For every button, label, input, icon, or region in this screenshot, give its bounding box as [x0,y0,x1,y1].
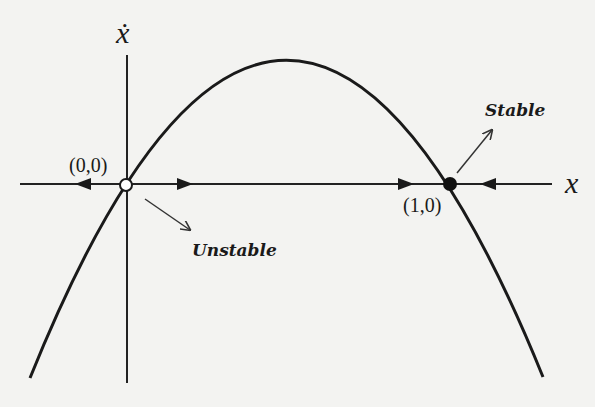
flow-arrow-left [75,178,91,190]
flow-arrow-right-1 [177,178,193,190]
origin-label: (0,0) [69,154,107,177]
stable-annotation: Stable [485,100,545,120]
parabola-curve [30,60,543,378]
flow-arrow-left-2 [480,178,496,190]
x-axis-label: x [565,166,578,200]
unstable-fixed-point-marker [120,179,132,191]
flow-arrow-right-2 [398,178,414,190]
unstable-pointer-arrow [145,199,190,230]
stable-pointer-arrow [457,130,492,173]
y-axis-label: ẋ [116,16,129,50]
stable-point-label: (1,0) [403,194,441,217]
stable-fixed-point-marker [443,177,457,191]
diagram-graphics [0,0,595,407]
phase-line-diagram: ẋ x (0,0) (1,0) Unstable Stable [0,0,595,407]
unstable-annotation: Unstable [192,240,277,260]
